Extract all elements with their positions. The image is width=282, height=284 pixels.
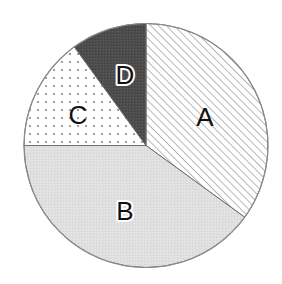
pie-chart-canvas: ABCD <box>0 0 282 284</box>
slice-label-d: D <box>116 60 135 90</box>
pie-chart: ABCD <box>0 0 282 284</box>
pie-slices <box>24 24 268 268</box>
slice-label-a: A <box>196 102 214 132</box>
slice-label-b: B <box>116 196 133 226</box>
slice-label-c: C <box>69 100 88 130</box>
